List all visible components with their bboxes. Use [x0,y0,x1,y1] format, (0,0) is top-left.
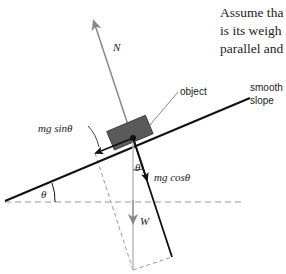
body-text-line: parallel and [220,40,286,58]
slope-label-line1: smooth [250,82,283,93]
normal-force-label: N [112,41,121,53]
parallel-component-label: mg sinθ [38,122,73,134]
object-block [107,115,153,150]
normal-force-arrow [94,22,131,134]
center-of-mass-dot [130,135,136,141]
body-text-line: Assume tha [220,4,286,22]
slope-label-line2: slope [250,95,274,106]
angle-label-slope: θ [41,188,47,200]
object-leader-line [150,92,178,125]
perpendicular-component-label: mg cosθ [154,171,191,183]
slope-line [5,98,250,201]
body-text-excerpt: Assume tha is its weigh parallel and [220,4,286,58]
weight-label: W [140,215,150,227]
body-text-line: is its weigh [220,22,286,40]
angle-label-weight: θ [135,161,141,173]
object-label: object [180,86,207,97]
angle-arc-slope [52,183,55,202]
parallel-component-leader [88,126,99,147]
